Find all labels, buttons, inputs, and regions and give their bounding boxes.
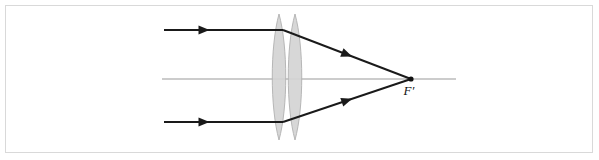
focal-point-label: F′ <box>403 83 415 98</box>
ray-lower-refracted-arrowhead <box>340 98 352 107</box>
ray-lower <box>164 79 411 127</box>
ray-upper-incident-arrowhead <box>199 25 210 34</box>
figure-root: F′ <box>0 0 599 160</box>
focal-point-dot <box>408 76 413 81</box>
ray-lower-incident-arrowhead <box>199 117 210 126</box>
ray-upper-refracted-arrowhead <box>340 48 352 57</box>
ray-diagram: F′ <box>0 0 599 160</box>
ray-upper <box>164 25 411 79</box>
